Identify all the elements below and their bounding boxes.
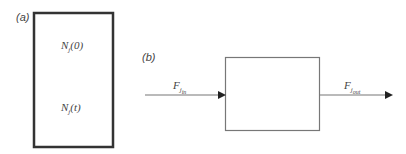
initial-amount-label: Nj(0) bbox=[61, 39, 83, 54]
amount-at-time-label: Nj(t) bbox=[61, 101, 81, 116]
open-system-box bbox=[226, 58, 320, 131]
closed-system-box bbox=[34, 13, 113, 147]
outflow-label: Fjout bbox=[344, 79, 360, 95]
panel-b-label: (b) bbox=[142, 51, 155, 63]
diagram-canvas bbox=[0, 0, 406, 154]
panel-a-label: (a) bbox=[16, 11, 29, 23]
inflow-label: Fjin bbox=[173, 79, 186, 95]
